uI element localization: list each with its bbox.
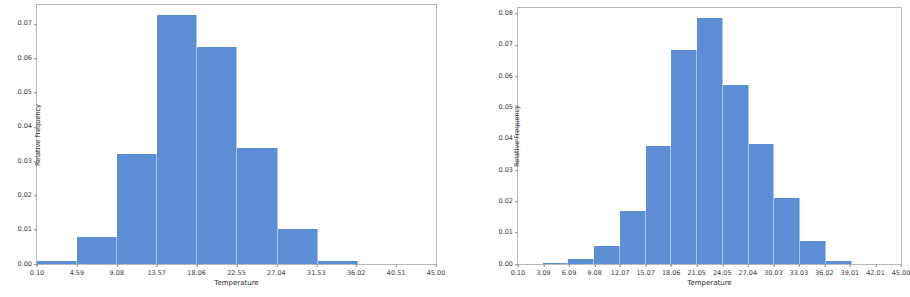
x-axis-tick-label: 3.09 [536, 264, 550, 277]
y-axis-tick-label: 0.02 [18, 192, 37, 199]
x-axis-tick-label: 27.04 [267, 264, 286, 277]
y-axis-tick-label: 0.05 [18, 89, 37, 96]
x-axis-tick-label: 0.10 [30, 264, 44, 277]
histogram-bars-right [518, 8, 901, 264]
x-axis-tick-label: 9.08 [110, 264, 124, 277]
x-axis-tick-label: 40.51 [387, 264, 406, 277]
histogram-bar [77, 237, 117, 264]
histogram-bar [749, 144, 775, 264]
plot-area-left: Relative Frequency Temperature 0.000.010… [36, 4, 437, 265]
y-axis-tick-label: 0.06 [499, 73, 518, 80]
x-axis-tick-label: 18.06 [187, 264, 206, 277]
histogram-bar [723, 85, 749, 264]
histogram-bar [620, 211, 646, 264]
x-axis-tick-label: 24.05 [713, 264, 732, 277]
x-axis-tick-label: 22.55 [227, 264, 246, 277]
x-axis-tick-label: 27.04 [738, 264, 757, 277]
y-axis-tick-label: 0.08 [499, 10, 518, 17]
x-axis-tick-label: 36.02 [815, 264, 834, 277]
histogram-bar [237, 148, 277, 264]
y-axis-tick-label: 0.02 [499, 198, 518, 205]
x-axis-tick-label: 36.02 [347, 264, 366, 277]
plot-area-right: Relative Frequency Temperature 0.000.010… [517, 7, 902, 265]
histogram-bar [646, 146, 672, 264]
x-axis-tick-label: 31.53 [307, 264, 326, 277]
y-axis-tick-label: 0.05 [499, 104, 518, 111]
histogram-bars-left [37, 5, 436, 264]
histogram-bar [800, 241, 826, 264]
x-axis-tick-label: 33.03 [790, 264, 809, 277]
y-axis-tick-label: 0.07 [499, 42, 518, 49]
histogram-bar [117, 154, 157, 264]
histogram-bar [594, 246, 620, 264]
chart-panel-right: Relative Frequency Temperature 0.000.010… [460, 0, 907, 297]
y-axis-tick-label: 0.07 [18, 21, 37, 28]
histogram-bar [157, 15, 197, 264]
y-axis-tick-label: 0.01 [499, 229, 518, 236]
histogram-bar [278, 229, 318, 264]
y-axis-tick-label: 0.04 [18, 124, 37, 131]
x-axis-label-right: Temperature [687, 279, 731, 287]
x-axis-tick-label: 30.03 [764, 264, 783, 277]
x-axis-tick-label: 9.08 [587, 264, 601, 277]
chart-panel-left: Relative Frequency Temperature 0.000.010… [0, 0, 460, 297]
x-axis-label-left: Temperature [214, 279, 258, 287]
histogram-bar [671, 50, 697, 264]
histogram-bar [697, 18, 723, 264]
x-axis-tick-label: 18.06 [662, 264, 681, 277]
y-axis-tick-label: 0.04 [499, 136, 518, 143]
x-axis-tick-label: 45.00 [892, 264, 910, 277]
y-axis-tick-label: 0.03 [499, 167, 518, 174]
x-axis-tick-label: 13.57 [147, 264, 166, 277]
x-axis-tick-label: 45.00 [427, 264, 446, 277]
x-axis-tick-label: 21.05 [687, 264, 706, 277]
x-axis-tick-label: 42.01 [866, 264, 885, 277]
x-axis-tick-label: 12.07 [611, 264, 630, 277]
y-axis-tick-label: 0.03 [18, 158, 37, 165]
y-axis-tick-label: 0.06 [18, 55, 37, 62]
histogram-bar [197, 47, 237, 264]
x-axis-tick-label: 39.01 [841, 264, 860, 277]
histogram-bar [774, 198, 800, 264]
x-axis-tick-label: 15.07 [636, 264, 655, 277]
x-axis-tick-label: 6.09 [562, 264, 576, 277]
x-axis-tick-label: 4.59 [70, 264, 84, 277]
x-axis-tick-label: 0.10 [511, 264, 525, 277]
y-axis-tick-label: 0.01 [18, 226, 37, 233]
y-axis-label-left: Relative Frequency [34, 104, 42, 166]
